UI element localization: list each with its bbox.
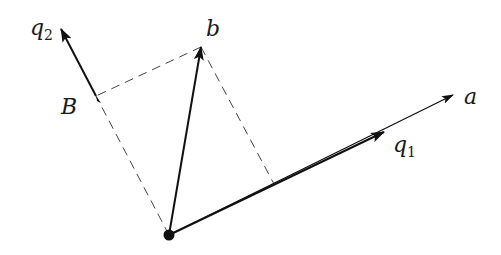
vector-b xyxy=(169,47,201,235)
origin-point xyxy=(164,230,175,241)
label-b: b xyxy=(206,16,220,41)
label-a: a xyxy=(464,84,477,109)
dashed-line-b-to-a xyxy=(201,47,274,184)
gram-schmidt-diagram: q2 b B a q1 xyxy=(0,0,501,255)
vector-q2 xyxy=(61,29,96,96)
vector-q1 xyxy=(169,132,384,235)
label-q2: q2 xyxy=(30,15,53,43)
dashed-line-origin-to-B xyxy=(96,96,169,235)
label-q1: q1 xyxy=(393,132,416,160)
B-endpoint-mark xyxy=(96,96,101,103)
dashed-line-b-to-B xyxy=(96,47,201,96)
label-B: B xyxy=(60,94,77,119)
